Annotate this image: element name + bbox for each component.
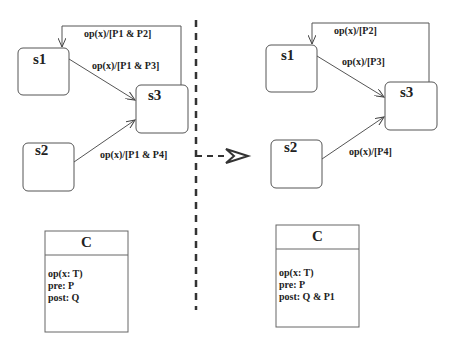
class-body-before: op(x: T) pre: P post: Q — [48, 268, 83, 304]
transition-label-s2-s3: op(x)/[P1 & P4] — [100, 150, 167, 160]
class-pre: pre: P — [279, 279, 335, 291]
transformation-arrow — [196, 149, 248, 163]
state-s3-label: s3 — [400, 85, 413, 100]
class-post: post: Q & P1 — [279, 291, 335, 303]
state-s2-label: s2 — [35, 143, 48, 158]
transition-label-s3-s1: op(x)/[P2] — [334, 26, 377, 36]
class-body-after: op(x: T) pre: P post: Q & P1 — [279, 267, 335, 303]
transition-label-s1-s3: op(x)/[P3] — [342, 57, 385, 67]
state-s3-box — [136, 85, 188, 133]
class-name-before: C — [45, 235, 128, 250]
transition-label-s3-s1: op(x)/[P1 & P2] — [84, 29, 151, 39]
transition-label-s2-s3: op(x)/[P4] — [349, 147, 392, 157]
transition-label-s1-s3: op(x)/[P1 & P3] — [92, 61, 159, 71]
class-post: post: Q — [48, 292, 83, 304]
state-s1-label: s1 — [33, 52, 46, 67]
state-s2-label: s2 — [284, 140, 297, 155]
before-diagram — [18, 26, 188, 332]
state-s1-label: s1 — [281, 48, 294, 63]
class-pre: pre: P — [48, 280, 83, 292]
class-op: op(x: T) — [48, 268, 83, 280]
state-s3-label: s3 — [148, 88, 161, 103]
class-op: op(x: T) — [279, 267, 335, 279]
state-s2-box — [23, 143, 74, 191]
class-name-after: C — [276, 229, 359, 244]
